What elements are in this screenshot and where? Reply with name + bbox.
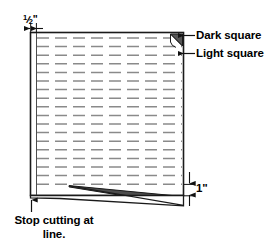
one-inch-label: 1" (196, 182, 208, 195)
dark-square-label: Dark square (196, 29, 261, 42)
fraction-one-half: 1/2 (23, 13, 33, 27)
sheet-outline (31, 33, 184, 196)
fraction-denominator: 2 (29, 17, 33, 26)
light-square-label: Light square (196, 47, 264, 60)
diagram-canvas: 1/2" Dark square Light square 1" Stop cu… (0, 0, 274, 244)
half-inch-label: 1/2" (23, 13, 38, 27)
stop-cutting-label: Stop cutting at line. (2, 214, 106, 241)
inch-unit-symbol: " (33, 13, 38, 25)
one-inch-dimension (184, 172, 195, 206)
